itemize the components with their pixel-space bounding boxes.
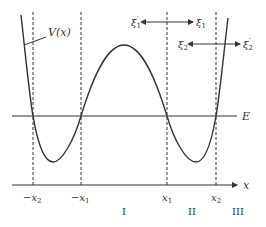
- double-well-diagram: E x V(x) −x2 −x1 x1 x2 I II III ξ1′ ξ1 ξ…: [0, 0, 266, 227]
- arrow-1-left-label: ξ1′: [131, 15, 141, 30]
- energy-label: E: [241, 110, 250, 123]
- curve-label: V(x): [48, 26, 71, 39]
- tick-label-x2: x2: [211, 192, 221, 205]
- tick-label-x1: x1: [162, 192, 172, 205]
- x-axis-label: x: [243, 179, 250, 192]
- arrow-1-right-label: ξ1: [196, 17, 206, 30]
- tick-labels: −x2 −x1 x1 x2: [23, 192, 221, 205]
- region-label-II: II: [188, 206, 196, 217]
- region-labels: I II III: [122, 206, 244, 217]
- curve-label-leader: [24, 37, 46, 45]
- tick-label-neg-x2: −x2: [23, 192, 42, 205]
- arrow-2-left-label: ξ2: [178, 39, 188, 52]
- arrow-2-right-label: ξ2′: [243, 37, 253, 52]
- region-label-I: I: [122, 206, 126, 217]
- region-label-III: III: [232, 206, 244, 217]
- tick-label-neg-x1: −x1: [71, 192, 90, 205]
